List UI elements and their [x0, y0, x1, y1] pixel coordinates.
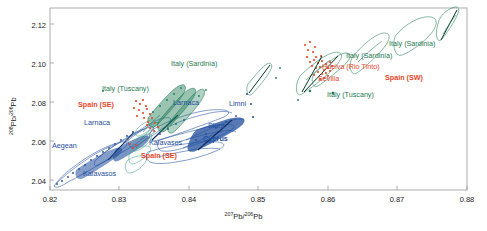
annotation-larnaca-2: Larnaca — [84, 119, 110, 126]
lead-isotope-scatter-figure: 208Pb/206Pb 2.12 2.10 2.08 2.06 2.04 0.8… — [0, 0, 487, 231]
annotation-italy-tuscany-2: Italy (Tuscany) — [327, 91, 374, 98]
annotation-spain-se-2: Spain (SE) — [141, 152, 177, 159]
annotation-italy-tuscany-1: Italy (Tuscany) — [102, 85, 149, 92]
annotation-skea: Skea — [208, 122, 224, 129]
plot-canvas — [0, 0, 487, 231]
annotation-italy-sardinia-3: Italy (Sardinia) — [389, 40, 435, 47]
annotation-cyprus: Cyprus — [203, 135, 228, 142]
annotation-spain-se-1: Spain (SE) — [78, 101, 114, 108]
annotation-larnaca-1: Larnaca — [173, 99, 199, 106]
annotation-huelva-rio-tinto: Huelva (Rio Tinto) — [322, 63, 380, 70]
annotation-italy-sardinia-1: Italy (Sardinia) — [171, 60, 217, 67]
annotation-aegean: Aegean — [52, 142, 77, 149]
annotation-limni: Limni — [229, 100, 246, 107]
annotation-sevilla: Sevilla — [318, 75, 339, 82]
plot-frame — [50, 8, 467, 190]
annotation-kalavasos-1: Kalavasos — [149, 139, 182, 146]
annotation-spain-sw: Spain (SW) — [385, 74, 423, 81]
annotation-italy-sardinia-2: Italy (Sardinia) — [346, 52, 392, 59]
annotation-kalavasos-2: Kalavasos — [83, 170, 116, 177]
